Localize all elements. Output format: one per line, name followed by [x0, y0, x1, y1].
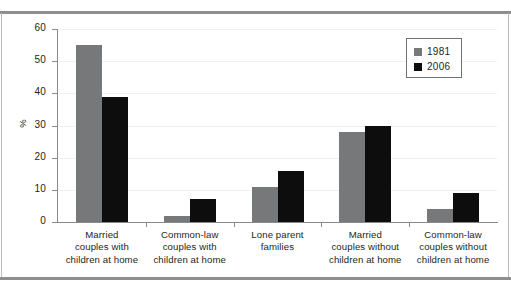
y-axis-title: %	[17, 119, 28, 127]
x-axis-category-label: Common-lawcouples withoutchildren at hom…	[409, 229, 497, 266]
x-axis-category-label-line: Lone parent	[234, 229, 322, 241]
bar-1981-cat4	[339, 132, 365, 222]
bar-2006-cat3	[278, 171, 304, 222]
x-axis-category-label-line: couples with	[58, 241, 146, 253]
legend-swatch-icon	[414, 63, 422, 71]
gridline	[58, 93, 497, 94]
x-axis-category-label-line: children at home	[58, 254, 146, 266]
x-axis-category-label: Marriedcouples withoutchildren at home	[321, 229, 409, 266]
legend-item: 2006	[414, 59, 461, 74]
y-axis-tick-label: 30	[34, 119, 46, 130]
x-axis-category-label-line: children at home	[146, 254, 234, 266]
x-axis-category-label: Common-lawcouples withchildren at home	[146, 229, 234, 266]
gridline	[58, 29, 497, 30]
x-axis-line	[57, 222, 498, 223]
x-axis-category-label: Marriedcouples withchildren at home	[58, 229, 146, 266]
chart-legend: 19812006	[406, 38, 462, 78]
x-axis-category-label: Lone parentfamilies	[234, 229, 322, 254]
y-axis-tick-label: 50	[34, 54, 46, 65]
legend-label: 1981	[427, 46, 450, 57]
bar-1981-cat5	[427, 209, 453, 222]
legend-swatch-icon	[414, 48, 422, 56]
bar-2006-cat1	[102, 97, 128, 222]
figure-left-rule	[1, 13, 2, 278]
legend-label: 2006	[427, 61, 450, 72]
x-axis-category-label-line: couples without	[409, 241, 497, 253]
figure-top-rule	[0, 11, 511, 14]
figure-right-rule	[508, 13, 509, 278]
x-axis-category-label-line: children at home	[409, 254, 497, 266]
y-axis-tick-label: 60	[34, 22, 46, 33]
x-axis-category-label-line: couples with	[146, 241, 234, 253]
x-axis-category-label-line: families	[234, 241, 322, 253]
x-axis-category-label-line: Married	[321, 229, 409, 241]
x-axis-category-label-line: children at home	[321, 254, 409, 266]
legend-item: 1981	[414, 44, 461, 59]
y-axis-tick-label: 10	[34, 183, 46, 194]
figure-bottom-rule	[0, 277, 511, 280]
bar-2006-cat5	[453, 193, 479, 222]
bar-1981-cat3	[252, 187, 278, 222]
x-axis-tick-mark	[321, 222, 322, 227]
bar-2006-cat2	[190, 199, 216, 222]
bar-2006-cat4	[365, 126, 391, 223]
x-axis-tick-mark	[234, 222, 235, 227]
x-axis-category-label-line: couples without	[321, 241, 409, 253]
x-axis-tick-mark	[146, 222, 147, 227]
x-axis-category-label-line: Common-law	[146, 229, 234, 241]
y-axis-tick-label: 20	[34, 151, 46, 162]
bar-1981-cat1	[76, 45, 102, 222]
y-axis-tick-label: 40	[34, 86, 46, 97]
y-axis-tick-label: 0	[40, 215, 46, 226]
bar-chart-figure: % 0102030405060 Marriedcouples withchild…	[0, 0, 511, 287]
x-axis-tick-mark	[409, 222, 410, 227]
x-axis-category-label-line: Common-law	[409, 229, 497, 241]
x-axis-category-label-line: Married	[58, 229, 146, 241]
